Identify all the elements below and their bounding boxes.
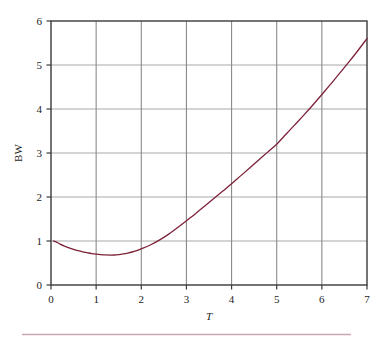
x-axis-title: T [206,310,213,322]
x-tick-label: 3 [184,293,190,305]
figure-container: 0123456 01234567 BW T [0,0,388,343]
y-tick-label: 5 [37,59,43,71]
y-tick-label: 0 [37,279,43,291]
y-tick-label: 3 [37,147,43,159]
y-axis-title: BW [12,144,24,162]
x-tick-label: 7 [364,293,370,305]
x-tick-label: 4 [229,293,235,305]
x-tick-label: 0 [48,293,54,305]
x-tick-label: 6 [319,293,325,305]
y-axis-tick-labels: 0123456 [37,15,43,291]
x-tick-label: 1 [93,293,99,305]
y-tick-label: 6 [37,15,43,27]
x-tick-label: 2 [139,293,145,305]
x-axis-tick-labels: 01234567 [48,293,370,305]
y-tick-label: 2 [37,191,43,203]
chart-canvas: 0123456 01234567 BW T [0,0,388,343]
y-tick-label: 4 [37,103,43,115]
x-tick-label: 5 [274,293,280,305]
y-tick-label: 1 [37,235,43,247]
